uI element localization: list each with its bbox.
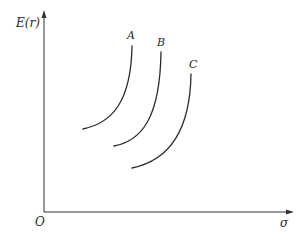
origin-label: O: [35, 215, 45, 229]
y-axis-label: E(r): [15, 16, 40, 30]
curve-a-label: A: [126, 29, 135, 42]
curve-c: [132, 74, 191, 168]
curve-c-label: C: [189, 58, 198, 71]
x-axis-label: σ: [280, 216, 289, 230]
curve-a: [83, 46, 132, 129]
curve-b-label: B: [156, 36, 165, 49]
y-axis-arrow-icon: [42, 10, 47, 18]
curve-b: [114, 52, 161, 146]
x-axis-arrow-icon: [286, 210, 294, 215]
diagram-canvas: E(r) σ O A B C: [0, 0, 306, 242]
